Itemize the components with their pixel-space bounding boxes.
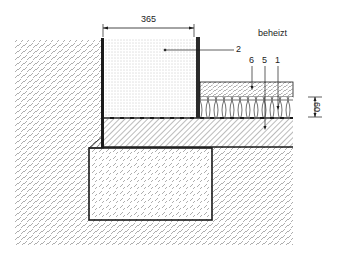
dimension-top <box>103 24 194 37</box>
zone-label-heated: beheizt <box>258 29 287 38</box>
dimension-60-label: 60 <box>312 102 321 112</box>
foundation <box>89 135 212 220</box>
label-wall: 2 <box>236 45 241 54</box>
floor-screed <box>200 82 293 97</box>
label-screed: 6 <box>249 56 254 65</box>
dimension-365-label: 365 <box>141 15 156 24</box>
label-insulation: 1 <box>275 56 280 65</box>
label-membrane: 5 <box>262 56 267 65</box>
section-drawing <box>0 0 348 253</box>
